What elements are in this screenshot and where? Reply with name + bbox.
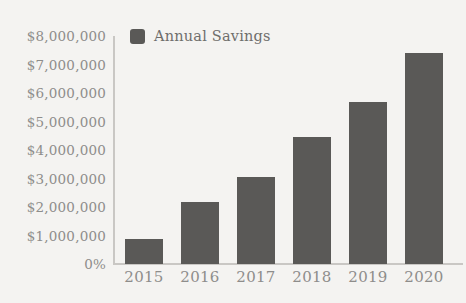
x-axis-tick-label: 2015 bbox=[114, 268, 174, 286]
x-axis-tick-label: 2020 bbox=[394, 268, 454, 286]
x-axis: 201520162017201820192020 bbox=[115, 268, 463, 298]
bar-slot bbox=[125, 36, 163, 264]
x-axis-tick-label: 2019 bbox=[338, 268, 398, 286]
y-axis-tick-label: $2,000,000 bbox=[0, 199, 106, 215]
x-axis-tick-label: 2017 bbox=[226, 268, 286, 286]
x-axis-tick-label: 2018 bbox=[282, 268, 342, 286]
y-axis-tick-label: $7,000,000 bbox=[0, 57, 106, 73]
bar-slot bbox=[405, 36, 443, 264]
y-axis-tick-label: $4,000,000 bbox=[0, 142, 106, 158]
bar-2015[interactable] bbox=[125, 239, 163, 264]
bar-slot bbox=[349, 36, 387, 264]
x-axis-tick-label: 2016 bbox=[170, 268, 230, 286]
bar-2020[interactable] bbox=[405, 53, 443, 264]
y-axis-tick-label: $5,000,000 bbox=[0, 114, 106, 130]
bar-slot bbox=[293, 36, 331, 264]
y-axis-tick-label: $1,000,000 bbox=[0, 228, 106, 244]
y-axis-tick-label: $6,000,000 bbox=[0, 85, 106, 101]
legend-label-annual-savings: Annual Savings bbox=[154, 28, 271, 44]
bar-slot bbox=[237, 36, 275, 264]
bar-2016[interactable] bbox=[181, 202, 219, 264]
bar-2017[interactable] bbox=[237, 177, 275, 264]
y-axis-tick-label: 0% bbox=[0, 256, 106, 272]
bar-chart: $8,000,000$7,000,000$6,000,000$5,000,000… bbox=[0, 0, 466, 303]
bar-2019[interactable] bbox=[349, 102, 387, 264]
bar-slot bbox=[181, 36, 219, 264]
legend-swatch-annual-savings bbox=[130, 29, 145, 44]
chart-legend: Annual Savings bbox=[130, 28, 271, 44]
bar-2018[interactable] bbox=[293, 137, 331, 264]
y-axis-tick-label: $3,000,000 bbox=[0, 171, 106, 187]
plot-area bbox=[115, 36, 463, 264]
y-axis-tick-label: $8,000,000 bbox=[0, 28, 106, 44]
y-axis: $8,000,000$7,000,000$6,000,000$5,000,000… bbox=[0, 0, 106, 303]
